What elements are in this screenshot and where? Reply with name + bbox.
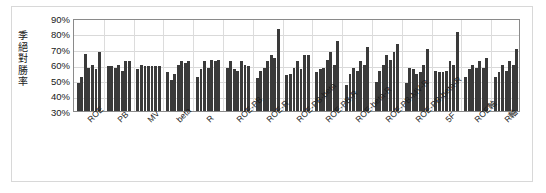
bar xyxy=(91,65,94,112)
bar xyxy=(207,68,210,111)
bar xyxy=(196,77,199,111)
bar xyxy=(464,77,467,111)
bar xyxy=(80,77,83,111)
bar-group xyxy=(494,20,519,111)
bar-group xyxy=(106,20,131,111)
bar xyxy=(210,60,213,111)
bar xyxy=(512,65,515,112)
bar xyxy=(471,65,474,112)
bar xyxy=(293,68,296,111)
bar xyxy=(508,61,511,111)
x-axis-tick-label: MV xyxy=(146,109,161,124)
bar-group xyxy=(166,20,191,111)
x-axis-labels: ROEPBMVbetaRROE-PBROE-RROE-PB-betaROE-PB… xyxy=(0,112,546,182)
bars-layer xyxy=(74,20,519,111)
y-axis-title-char: 率 xyxy=(16,76,29,88)
x-axis-tick-label: 5F xyxy=(444,111,457,124)
bar xyxy=(147,66,150,111)
bar xyxy=(170,80,173,111)
bar-group xyxy=(196,20,221,111)
y-axis-title-char: 絕 xyxy=(16,42,29,54)
bar xyxy=(158,66,161,111)
y-axis-title-char: 季 xyxy=(16,30,29,42)
bar xyxy=(180,61,183,111)
bar xyxy=(128,61,131,111)
bar xyxy=(77,83,80,111)
bar xyxy=(173,74,176,111)
y-axis-tick-label: 70% xyxy=(51,46,70,55)
chart-figure: 季絕對勝率 90%80%70%60%50%40%30% ROEPBMVbetaR… xyxy=(0,0,546,193)
x-axis-tick-label: R xyxy=(205,114,216,125)
bar-group xyxy=(464,20,489,111)
bar xyxy=(270,55,273,111)
bar xyxy=(229,61,232,111)
y-axis-tick-label: 50% xyxy=(51,77,70,86)
bar xyxy=(203,61,206,111)
bar xyxy=(393,52,396,111)
y-axis-title: 季絕對勝率 xyxy=(16,30,29,88)
bar xyxy=(478,61,481,111)
bar xyxy=(117,65,120,112)
bar xyxy=(124,61,127,111)
bar xyxy=(475,68,478,111)
bar-group xyxy=(226,20,251,111)
bar xyxy=(151,66,154,111)
y-axis-tick-label: 80% xyxy=(51,30,70,39)
bar xyxy=(501,65,504,112)
bar xyxy=(154,66,157,111)
bar xyxy=(166,72,169,111)
bar xyxy=(505,71,508,111)
bar xyxy=(98,52,101,111)
bar xyxy=(200,69,203,111)
y-axis-title-char: 對 xyxy=(16,53,29,65)
bar xyxy=(266,61,269,111)
bar xyxy=(136,69,139,111)
bar xyxy=(184,63,187,111)
bar xyxy=(456,32,459,111)
bar xyxy=(277,29,280,111)
bar-group xyxy=(77,20,102,111)
bar xyxy=(214,61,217,111)
plot-area xyxy=(73,19,520,112)
bar xyxy=(240,61,243,111)
bar xyxy=(273,58,276,111)
bar xyxy=(87,68,90,111)
x-axis-tick-label: PB xyxy=(116,110,130,124)
bar xyxy=(217,60,220,111)
bar xyxy=(187,61,190,111)
y-axis-ticks: 90%80%70%60%50%40%30% xyxy=(30,12,70,120)
bar xyxy=(359,61,362,111)
bar xyxy=(114,68,117,111)
bar xyxy=(236,71,239,111)
bar xyxy=(303,55,306,111)
bar xyxy=(515,49,518,111)
bar xyxy=(144,66,147,111)
bar xyxy=(468,69,471,111)
bar-group xyxy=(136,20,161,111)
y-axis-tick-label: 40% xyxy=(51,92,70,101)
bar xyxy=(140,65,143,112)
bar xyxy=(177,65,180,112)
bar xyxy=(233,69,236,111)
bar xyxy=(226,68,229,111)
bar xyxy=(263,68,266,111)
bar xyxy=(389,60,392,111)
bar xyxy=(107,66,110,111)
bar-group xyxy=(285,20,310,111)
y-axis-title-char: 勝 xyxy=(16,65,29,77)
bar xyxy=(300,69,303,111)
y-axis-tick-label: 90% xyxy=(51,15,70,24)
bar xyxy=(110,66,113,111)
bar xyxy=(296,61,299,111)
bar xyxy=(121,71,124,111)
y-axis-tick-label: 60% xyxy=(51,61,70,70)
bar xyxy=(84,54,87,111)
